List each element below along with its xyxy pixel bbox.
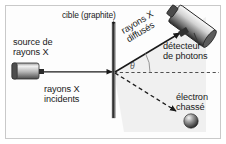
angle-label: θ: [130, 62, 135, 71]
target-label: cible (graphite): [62, 11, 116, 20]
incident-beam-label: rayons X incidents: [44, 85, 79, 105]
compton-scattering-figure: cible (graphite) source de rayons X rayo…: [0, 0, 226, 144]
graphite-rod: [112, 22, 116, 118]
detector-label: détecteur de photons: [163, 42, 207, 62]
source-label: source de rayons X: [13, 38, 52, 58]
xray-source-cylinder: [12, 63, 44, 79]
diagram-canvas: [0, 0, 226, 144]
electron-label: électron chassé: [176, 93, 208, 113]
electron-sphere: [184, 114, 198, 128]
